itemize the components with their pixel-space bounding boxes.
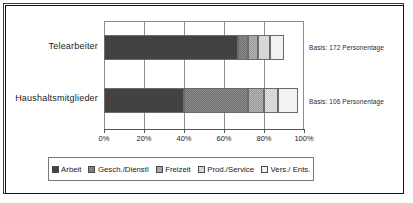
bar-segment-gesch-dienstl <box>238 35 248 60</box>
bar-segment-gesch-dienstl <box>184 88 248 113</box>
basis-annotation-haushaltsmitglieder: Basis: 106 Personentage <box>309 98 384 105</box>
x-tick-80 <box>264 129 265 133</box>
x-tick-label-60: 60% <box>204 134 244 143</box>
legend-label-vers-ents: Vers./ Ents. <box>271 165 311 174</box>
bar-segment-vers-ents <box>270 35 284 60</box>
legend-item-gesch-dienstl: Gesch./Dienstl <box>88 165 148 174</box>
x-tick-40 <box>184 129 185 133</box>
x-tick-100 <box>304 129 305 133</box>
legend-swatch-freizeit <box>156 166 163 173</box>
legend-item-vers-ents: Vers./ Ents. <box>261 165 310 174</box>
x-tick-label-40: 40% <box>164 134 204 143</box>
chart-legend: Arbeit Gesch./Dienstl Freizeit Prod./Ser… <box>48 157 314 181</box>
x-tick-label-100: 100% <box>284 134 324 143</box>
legend-item-arbeit: Arbeit <box>52 165 82 174</box>
bar-segment-prod-service <box>258 35 270 60</box>
x-tick-label-0: 0% <box>84 134 124 143</box>
x-tick-label-20: 20% <box>124 134 164 143</box>
bar-haushaltsmitglieder <box>104 88 298 113</box>
legend-item-freizeit: Freizeit <box>156 165 191 174</box>
bar-segment-freizeit <box>248 88 264 113</box>
legend-label-arbeit: Arbeit <box>61 165 81 174</box>
bar-segment-vers-ents <box>278 88 298 113</box>
chart-canvas: 0% 20% 40% 60% 80% 100% Telearbeiter Hau… <box>0 0 413 203</box>
x-tick-20 <box>144 129 145 133</box>
bar-segment-prod-service <box>264 88 278 113</box>
bar-telearbeiter <box>104 35 284 60</box>
category-label-haushaltsmitglieder: Haushaltsmitglieder <box>0 93 98 103</box>
legend-swatch-gesch-dienstl <box>88 166 95 173</box>
x-axis-line <box>104 129 305 130</box>
bar-segment-arbeit <box>104 35 238 60</box>
legend-item-prod-service: Prod./Service <box>198 165 254 174</box>
x-tick-60 <box>224 129 225 133</box>
legend-label-gesch-dienstl: Gesch./Dienstl <box>98 165 149 174</box>
bar-segment-arbeit <box>104 88 184 113</box>
category-label-telearbeiter: Telearbeiter <box>0 41 98 51</box>
x-tick-0 <box>104 129 105 133</box>
legend-label-freizeit: Freizeit <box>165 165 191 174</box>
bar-segment-freizeit <box>248 35 258 60</box>
legend-swatch-vers-ents <box>261 166 268 173</box>
legend-swatch-prod-service <box>198 166 205 173</box>
basis-annotation-telearbeiter: Basis: 172 Personentage <box>309 44 384 51</box>
x-tick-label-80: 80% <box>244 134 284 143</box>
legend-swatch-arbeit <box>52 166 59 173</box>
legend-label-prod-service: Prod./Service <box>207 165 254 174</box>
